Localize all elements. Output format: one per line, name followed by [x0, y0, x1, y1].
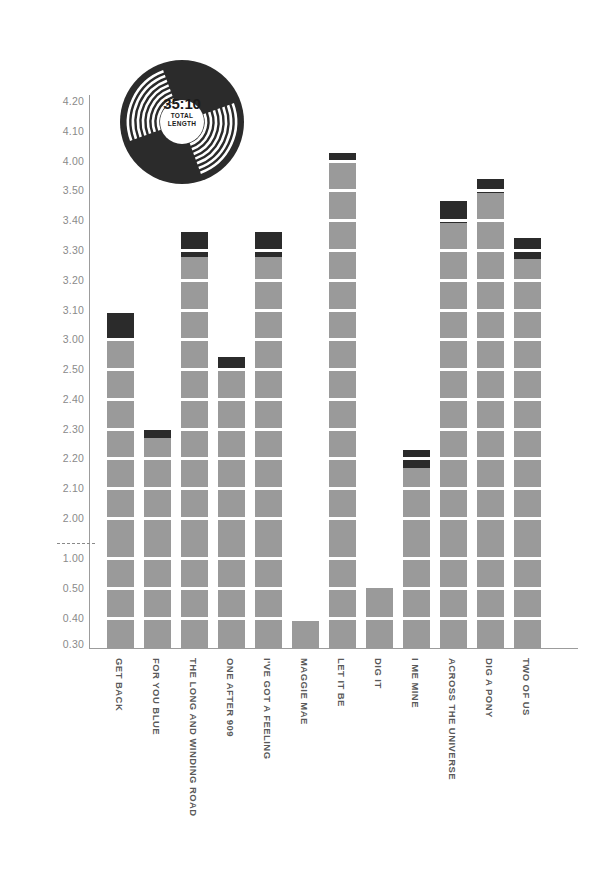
x-axis-label: ONE AFTER 909	[225, 658, 236, 858]
x-axis-label: I ME MINE	[410, 658, 421, 858]
x-axis-label: I'VE GOT A FEELING	[262, 658, 273, 858]
x-axis-labels: GET BACKFOR YOU BLUETHE LONG AND WINDING…	[0, 0, 608, 884]
x-axis-label: LET IT BE	[336, 658, 347, 858]
x-axis-label: THE LONG AND WINDING ROAD	[188, 658, 199, 858]
chart-container: 35:10 TOTAL LENGTH 4.204.104.003.503.403…	[0, 0, 608, 884]
x-axis-label: GET BACK	[114, 658, 125, 858]
x-axis-label: ACROSS THE UNIVERSE	[447, 658, 458, 858]
x-axis-label: DIG IT	[373, 658, 384, 858]
x-axis-label: MAGGIE MAE	[299, 658, 310, 858]
x-axis-label: TWO OF US	[521, 658, 532, 858]
x-axis-label: FOR YOU BLUE	[151, 658, 162, 858]
x-axis-label: DIG A PONY	[484, 658, 495, 858]
